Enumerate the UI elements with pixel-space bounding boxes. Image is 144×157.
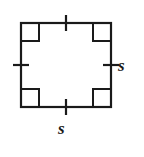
- side-length-label-right: s: [118, 57, 125, 74]
- square-outline: [21, 23, 111, 107]
- geometry-figure-container: s s: [0, 0, 144, 157]
- side-length-label-bottom: s: [58, 120, 65, 137]
- square-diagram-svg: [0, 0, 144, 157]
